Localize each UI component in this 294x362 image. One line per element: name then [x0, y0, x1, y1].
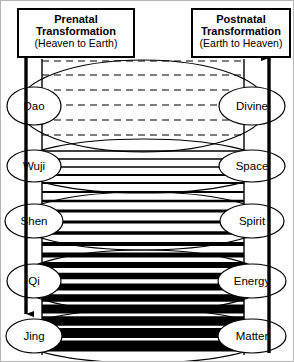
band-thin-wuji: [42, 151, 244, 192]
diagram-canvas: Prenatal Transformation (Heaven to Earth…: [0, 0, 294, 362]
postnatal-title-line1: Postnatal: [195, 13, 287, 25]
band-verythick-jing: [42, 309, 244, 346]
band-dashed-dao: [42, 61, 244, 135]
prenatal-header-box: Prenatal Transformation (Heaven to Earth…: [17, 8, 135, 58]
postnatal-title-line2: Transformation: [195, 25, 287, 37]
band-medium-shen: [42, 201, 244, 255]
band-thick-qi: [42, 265, 244, 298]
prenatal-subtitle: (Heaven to Earth): [21, 38, 131, 50]
density-gradient-column: [42, 61, 244, 346]
postnatal-header-box: Postnatal Transformation (Earth to Heave…: [191, 8, 291, 58]
prenatal-title-line2: Transformation: [21, 25, 131, 37]
postnatal-subtitle: (Earth to Heaven): [195, 38, 287, 50]
prenatal-title-line1: Prenatal: [21, 13, 131, 25]
